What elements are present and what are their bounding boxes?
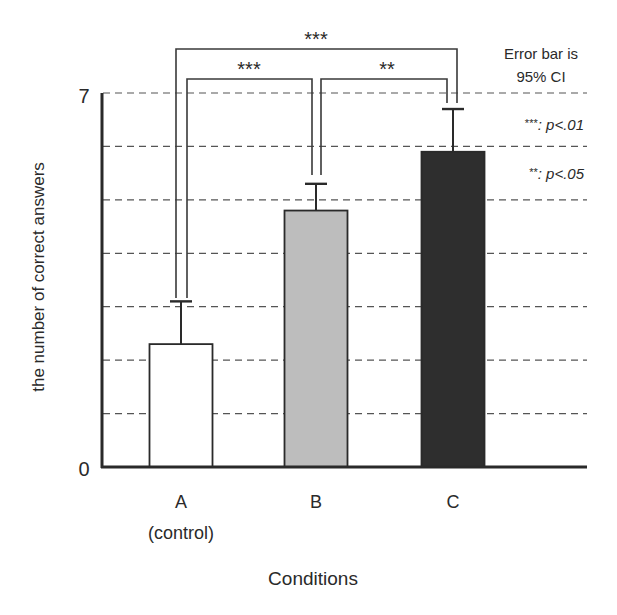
error-bar-note-line1: Error bar is [504,45,578,62]
y-axis-label: the number of correct answers [29,162,48,392]
sig-label-b-c: ** [379,58,395,80]
sig-label-a-c: *** [304,28,328,50]
sig-label-a-b: *** [237,58,261,80]
x-label-c: C [447,492,460,512]
bar-chart: *** *** ** 7 0 the number of correct ans… [0,0,617,615]
legend-p05: **: p<.05 [529,165,585,182]
bar-b [285,211,348,467]
legend-p01: ***: p<.01 [525,116,584,133]
x-label-a: A [175,492,187,512]
legend-p01-stars: *** [525,117,539,129]
y-tick-7: 7 [78,85,89,107]
x-label-b: B [310,492,322,512]
x-sublabel-a: (control) [148,523,214,543]
legend-p01-text: : p<.01 [538,116,584,133]
x-axis-label: Conditions [268,568,358,589]
bar-c [422,152,485,467]
error-bar-note-line2: 95% CI [516,68,565,85]
legend-p05-text: : p<.05 [538,165,585,182]
bar-a [150,344,213,467]
y-tick-0: 0 [78,458,89,480]
